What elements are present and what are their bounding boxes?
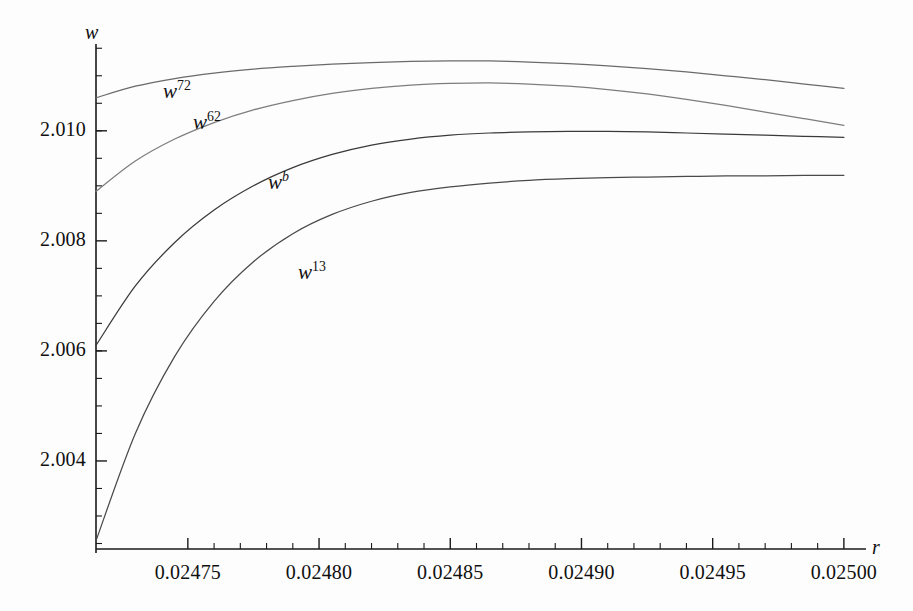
curve-label-base: w xyxy=(298,260,312,284)
curve-label-wb: wb xyxy=(268,170,289,195)
plot-canvas xyxy=(0,0,913,611)
x-tick-label: 0.02475 xyxy=(128,561,248,584)
curve-label-base: w xyxy=(163,79,177,103)
y-tick-label: 2.008 xyxy=(2,228,86,251)
curve-label-superscript: b xyxy=(282,169,289,184)
x-tick-label: 0.02480 xyxy=(259,561,379,584)
x-tick-label: 0.02490 xyxy=(521,561,641,584)
y-tick-label: 2.006 xyxy=(2,338,86,361)
curve-label-superscript: 62 xyxy=(207,109,221,124)
x-axis-name: r xyxy=(872,536,880,559)
curve-label-base: w xyxy=(193,110,207,134)
chart-figure: 0.024750.024800.024850.024900.024950.025… xyxy=(0,0,913,611)
x-tick-label: 0.02485 xyxy=(390,561,510,584)
y-tick-label: 2.004 xyxy=(2,448,86,471)
y-tick-label: 2.010 xyxy=(2,118,86,141)
curve-label-superscript: 72 xyxy=(177,78,191,93)
curve-label-w72: w72 xyxy=(163,79,191,104)
curve-label-w62: w62 xyxy=(193,110,221,135)
curve-label-superscript: 13 xyxy=(312,259,326,274)
curve-wb xyxy=(96,131,844,345)
x-tick-label: 0.02495 xyxy=(653,561,773,584)
curve-label-w13: w13 xyxy=(298,260,326,285)
curve-w72 xyxy=(96,61,844,98)
curve-label-base: w xyxy=(268,170,282,194)
x-tick-label: 0.02500 xyxy=(784,561,904,584)
curve-w62 xyxy=(96,83,844,191)
y-axis-name: w xyxy=(85,21,98,44)
curve-w13 xyxy=(96,175,844,540)
